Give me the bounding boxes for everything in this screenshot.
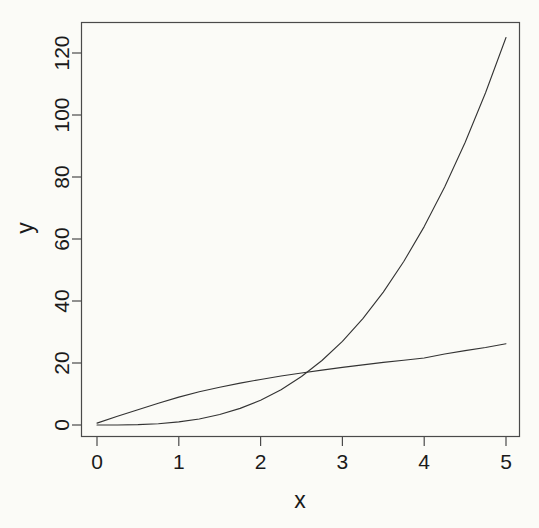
y-tick-label: 20 bbox=[50, 351, 73, 374]
y-axis-title: y bbox=[12, 222, 38, 234]
x-tick-label: 3 bbox=[337, 450, 349, 473]
x-axis-title: x bbox=[294, 487, 306, 513]
x-tick-label: 5 bbox=[500, 450, 512, 473]
x-tick-label: 2 bbox=[255, 450, 267, 473]
x-tick-label: 1 bbox=[173, 450, 185, 473]
plot-canvas: 012345 020406080100120 x y bbox=[0, 0, 539, 528]
plot-background bbox=[0, 0, 539, 528]
y-tick-label: 40 bbox=[50, 289, 73, 312]
chart-page: 012345 020406080100120 x y bbox=[0, 0, 539, 528]
y-tick-label: 80 bbox=[50, 165, 73, 188]
x-tick-label: 0 bbox=[91, 450, 103, 473]
y-tick-label: 0 bbox=[50, 419, 73, 431]
y-tick-label: 100 bbox=[50, 97, 73, 132]
x-tick-label: 4 bbox=[418, 450, 430, 473]
y-tick-label: 60 bbox=[50, 227, 73, 250]
y-tick-label: 120 bbox=[50, 35, 73, 70]
